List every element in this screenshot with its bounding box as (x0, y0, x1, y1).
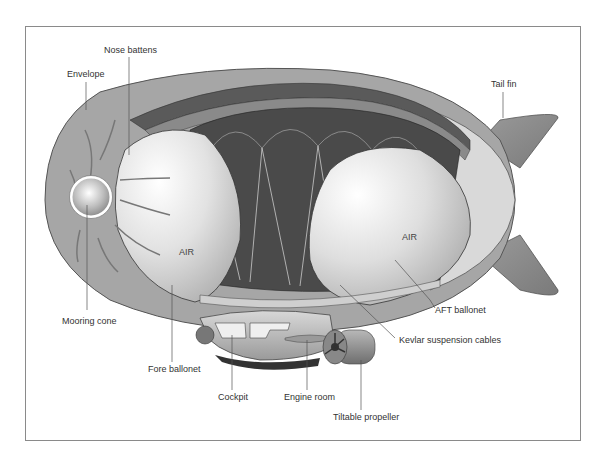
label-envelope: Envelope (67, 69, 105, 79)
label-mooring-cone: Mooring cone (62, 316, 117, 326)
label-tiltable-propeller: Tiltable propeller (333, 412, 399, 422)
label-engine-room: Engine room (284, 392, 335, 402)
label-nose-battens: Nose battens (104, 45, 157, 55)
gondola (196, 311, 335, 370)
tiltable-propeller (323, 330, 375, 364)
mooring-cone (71, 177, 111, 217)
label-cockpit: Cockpit (218, 392, 248, 402)
label-tail-fin: Tail fin (491, 79, 517, 89)
fore-ballonet-air-text: AIR (179, 247, 194, 257)
label-kevlar-cables: Kevlar suspension cables (399, 335, 501, 345)
aft-ballonet-air-text: AIR (402, 232, 417, 242)
label-fore-ballonet: Fore ballonet (148, 364, 201, 374)
label-aft-ballonet: AFT ballonet (435, 305, 486, 315)
